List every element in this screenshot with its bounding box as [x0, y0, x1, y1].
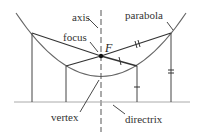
- parabola-diagram: axis focus F parabola vertex directrix: [0, 0, 197, 137]
- parabola-label: parabola: [125, 9, 163, 21]
- focus-midleft-segment: [66, 56, 101, 66]
- axis-label: axis: [72, 11, 90, 23]
- focus-F-label: F: [104, 41, 113, 55]
- focus-arrow: [90, 42, 98, 52]
- vertex-label: vertex: [51, 111, 79, 123]
- focus-label: focus: [63, 31, 87, 43]
- vertex-arrow: [80, 80, 99, 112]
- focus-point: [99, 54, 103, 58]
- parabola-arrow: [167, 22, 173, 30]
- directrix-arrow: [113, 105, 125, 114]
- directrix-label: directrix: [125, 113, 163, 125]
